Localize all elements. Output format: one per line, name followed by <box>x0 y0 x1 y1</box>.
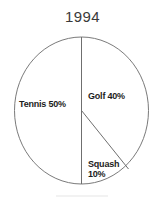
slice-label-squash: Squash 10% <box>88 159 119 179</box>
pie-chart-figure: 1994 Tennis 50% Golf 40% Squash 10% <box>0 0 165 202</box>
slice-label-squash-line2: 10% <box>88 169 119 179</box>
scan-artifact-mark <box>56 195 108 197</box>
slice-tennis <box>15 37 82 184</box>
slice-label-tennis: Tennis 50% <box>19 99 66 109</box>
slice-label-squash-line1: Squash <box>88 159 119 169</box>
slice-golf <box>82 37 156 169</box>
slice-label-golf: Golf 40% <box>88 91 125 101</box>
